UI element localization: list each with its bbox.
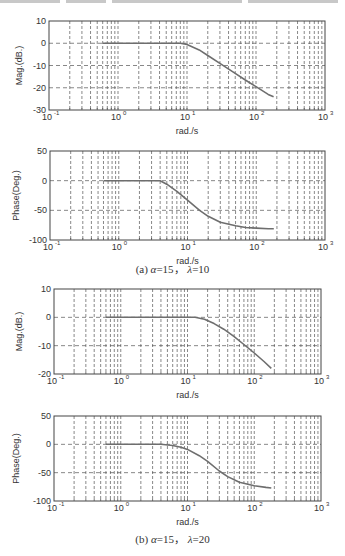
curve-magnitude: [103, 43, 274, 96]
y-tick-label: -50: [34, 205, 47, 215]
y-tick-label: 50: [41, 411, 51, 421]
caption-b: (b) α=15， λ=20: [0, 530, 345, 546]
x-axis-label: rad./s: [176, 517, 199, 527]
caption-a-label: (a): [136, 263, 148, 275]
x-tick-label: 10: [314, 503, 324, 513]
y-tick-label: 0: [42, 176, 47, 186]
x-tick-label: 10: [47, 376, 57, 386]
x-tick-label: 10: [318, 112, 328, 122]
y-tick-label: -20: [33, 83, 46, 93]
y-tick-label: 0: [46, 439, 51, 449]
y-tick-label: 50: [37, 146, 47, 156]
y-axis-label: Mag.(dB.): [14, 46, 24, 86]
caption-a-alpha-value: =15，: [156, 263, 184, 275]
bode-plots: 100-10-20-3010-1100101102103rad./sMag.(d…: [0, 0, 345, 556]
x-tick-label: 10: [247, 503, 257, 513]
y-tick-label: 10: [36, 16, 46, 26]
x-tick-exponent: 1: [193, 240, 197, 246]
x-tick-label: 10: [114, 376, 124, 386]
y-tick-label: 10: [41, 284, 51, 294]
x-tick-label: 10: [180, 376, 190, 386]
y-axis-label: Phase(Deg.): [11, 433, 21, 484]
x-tick-label: 10: [180, 503, 190, 513]
figure: 100-10-20-3010-1100101102103rad./sMag.(d…: [0, 0, 345, 556]
y-tick-label: -10: [38, 341, 51, 351]
x-tick-exponent: 0: [124, 240, 128, 246]
y-tick-label: 0: [46, 312, 51, 322]
x-tick-label: 10: [42, 112, 52, 122]
x-tick-label: 10: [247, 376, 257, 386]
x-tick-exponent: 0: [126, 501, 130, 507]
x-tick-exponent: 3: [326, 501, 330, 507]
y-axis-label: Mag.(dB.): [14, 312, 24, 352]
curve-phase: [106, 444, 271, 488]
curve-phase: [104, 181, 274, 229]
y-tick-label: 0: [41, 38, 46, 48]
x-tick-label: 10: [43, 242, 53, 252]
x-tick-label: 10: [47, 503, 57, 513]
x-tick-exponent: 1: [192, 110, 196, 116]
y-tick-label: -50: [38, 468, 51, 478]
x-tick-exponent: -1: [59, 374, 65, 380]
curve-magnitude: [106, 317, 271, 368]
x-tick-exponent: 0: [126, 374, 130, 380]
y-tick-label: -10: [33, 61, 46, 71]
x-tick-exponent: 2: [259, 501, 263, 507]
x-tick-label: 10: [180, 242, 190, 252]
x-tick-exponent: 3: [326, 374, 330, 380]
x-tick-label: 10: [249, 242, 259, 252]
caption-a: (a) α=15， λ=10: [0, 260, 345, 276]
chart-a-phase: 500-50-10010-1100101102103rad./sPhase(De…: [11, 146, 334, 266]
x-tick-exponent: 1: [193, 374, 197, 380]
x-tick-exponent: 2: [261, 240, 265, 246]
x-tick-exponent: -1: [54, 110, 60, 116]
x-tick-label: 10: [112, 242, 122, 252]
x-tick-label: 10: [180, 112, 190, 122]
x-tick-exponent: 2: [261, 110, 265, 116]
x-tick-label: 10: [249, 112, 259, 122]
chart-b-phase: 500-50-10010-1100101102103rad./sPhase(De…: [11, 411, 330, 527]
caption-b-alpha-value: =15，: [157, 533, 185, 545]
x-tick-label: 10: [314, 376, 324, 386]
chart-b-magnitude: 100-10-2010-1100101102103rad./sMag.(dB.): [14, 284, 330, 400]
x-tick-exponent: 3: [330, 240, 334, 246]
caption-a-lambda-value: =10: [192, 263, 209, 275]
x-tick-label: 10: [114, 503, 124, 513]
y-axis-label: Phase(Deg.): [11, 170, 21, 221]
x-tick-exponent: -1: [55, 240, 61, 246]
x-axis-label: rad./s: [176, 390, 199, 400]
x-tick-exponent: 2: [259, 374, 263, 380]
x-tick-exponent: 0: [123, 110, 127, 116]
x-tick-exponent: 1: [193, 501, 197, 507]
caption-b-label: (b): [135, 533, 148, 545]
x-tick-exponent: 3: [330, 110, 334, 116]
caption-b-lambda-value: =20: [192, 533, 209, 545]
x-tick-label: 10: [111, 112, 121, 122]
chart-a-magnitude: 100-10-20-3010-1100101102103rad./sMag.(d…: [14, 16, 334, 136]
x-axis-label: rad./s: [176, 126, 199, 136]
x-tick-exponent: -1: [59, 501, 65, 507]
x-tick-label: 10: [318, 242, 328, 252]
